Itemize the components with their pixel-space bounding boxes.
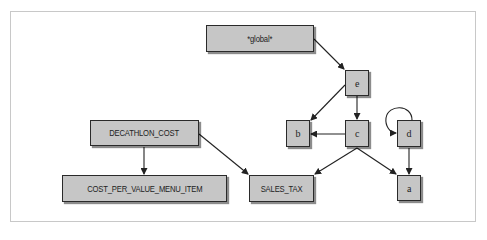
node-label: c bbox=[355, 128, 359, 139]
node-c: c bbox=[345, 120, 369, 147]
node-a: a bbox=[397, 175, 421, 201]
node-decathlon-cost: DECATHLON_COST bbox=[90, 120, 199, 146]
node-d: d bbox=[397, 120, 421, 147]
node-label: DECATHLON_COST bbox=[110, 128, 180, 138]
node-label: *global* bbox=[247, 34, 272, 44]
node-label: d bbox=[407, 128, 412, 139]
node-b: b bbox=[286, 120, 310, 147]
edge-e-to-b bbox=[311, 85, 345, 120]
node-label: COST_PER_VALUE_MENU_ITEM bbox=[87, 184, 202, 194]
edge-c-to-a bbox=[357, 148, 396, 174]
node-global: *global* bbox=[206, 25, 314, 52]
node-label: b bbox=[296, 128, 301, 139]
edge-global-to-e bbox=[314, 39, 344, 69]
edge-c-to-sales-tax bbox=[315, 148, 357, 174]
node-label: e bbox=[355, 78, 359, 89]
node-sales-tax: SALES_TAX bbox=[249, 175, 314, 202]
node-label: SALES_TAX bbox=[261, 184, 303, 194]
node-cost-per-value-menu-item: COST_PER_VALUE_MENU_ITEM bbox=[62, 175, 227, 202]
node-label: a bbox=[407, 183, 411, 194]
node-e: e bbox=[345, 70, 369, 96]
edge-decathlon-to-sales-tax bbox=[199, 134, 248, 174]
